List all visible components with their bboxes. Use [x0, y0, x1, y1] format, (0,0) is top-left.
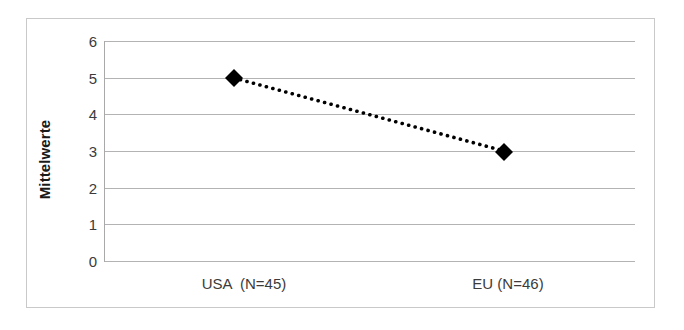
chart-container: 6 5 4 3 2 1 0 Mittelwerte USA (N=45) EU … — [0, 0, 684, 330]
series-line-dotted — [234, 78, 504, 151]
x-tick-label-usa: USA (N=45) — [134, 275, 354, 292]
data-point-marker-eu — [495, 143, 513, 161]
x-tick-label-eu: EU (N=46) — [398, 275, 618, 292]
data-point-marker-usa — [225, 69, 243, 87]
